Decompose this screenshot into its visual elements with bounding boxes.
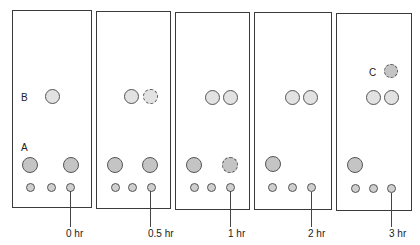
time-label-0.5hr: 0.5 hr (148, 228, 174, 239)
spot-a-lane3 (63, 157, 79, 173)
time-leader-line-0hr (70, 191, 71, 227)
spot-c-lane3 (384, 64, 398, 78)
origin-spot-3 (387, 184, 396, 193)
spot-a-lane3 (142, 157, 158, 173)
spot-b-lane2 (205, 90, 220, 105)
time-leader-line-1hr (230, 191, 231, 227)
spot-b-lane3 (223, 90, 238, 105)
spot-b-lane2 (285, 90, 300, 105)
tlc-plate-2hr (254, 12, 332, 210)
tlc-plate-1hr (175, 12, 250, 210)
spot-label-c: C (369, 67, 376, 78)
spot-a-lane1 (186, 157, 202, 173)
spot-b-lane2 (366, 90, 381, 105)
time-leader-line-2hr (311, 192, 312, 227)
time-label-1hr: 1 hr (228, 228, 245, 239)
spot-a-lane1 (265, 156, 281, 172)
spot-a-lane1 (347, 157, 363, 173)
origin-spot-2 (47, 183, 56, 192)
time-label-0hr: 0 hr (66, 228, 83, 239)
spot-label-a: A (21, 142, 28, 153)
time-leader-line-0.5hr (150, 191, 151, 227)
time-label-3hr: 3 hr (389, 228, 406, 239)
spot-a-lane3-faint (222, 157, 238, 173)
origin-spot-2 (369, 184, 378, 193)
time-label-2hr: 2 hr (308, 228, 325, 239)
spot-b-lane3 (384, 90, 399, 105)
spot-a-lane1 (107, 157, 123, 173)
origin-spot-1 (111, 183, 120, 192)
spot-b-lane2 (45, 89, 60, 104)
origin-spot-2 (207, 183, 216, 192)
origin-spot-1 (190, 183, 199, 192)
spot-label-b: B (21, 92, 28, 103)
spot-b-lane3 (303, 90, 318, 105)
tlc-plate-3hr: C (336, 13, 412, 211)
origin-spot-1 (268, 183, 277, 192)
origin-spot-2 (128, 183, 137, 192)
origin-spot-1 (351, 184, 360, 193)
spot-b-lane3-faint (143, 89, 158, 104)
origin-spot-3 (307, 183, 316, 192)
spot-a-lane1 (22, 157, 38, 173)
spot-b-lane2 (124, 89, 139, 104)
tlc-plate-0hr: B A (12, 10, 92, 208)
tlc-plate-0.5hr (96, 11, 171, 209)
origin-spot-3 (147, 183, 156, 192)
origin-spot-1 (26, 183, 35, 192)
origin-spot-2 (288, 183, 297, 192)
time-leader-line-3hr (391, 193, 392, 227)
